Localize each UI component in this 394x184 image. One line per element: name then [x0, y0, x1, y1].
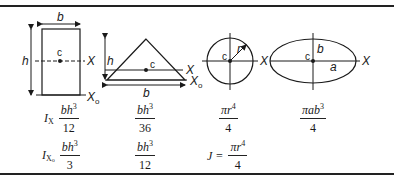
centroid-label: c: [222, 51, 227, 62]
centroid-dot: [228, 59, 232, 63]
centroid-dot: [58, 59, 62, 63]
axis-label-x: X: [259, 54, 269, 68]
fraction: πab34: [300, 103, 326, 134]
row-label-ixo: IXo: [42, 149, 55, 163]
row-label-ix: IX: [44, 112, 54, 126]
width-label: b: [57, 10, 64, 24]
triangle-figure: h c X Xo b: [105, 38, 203, 100]
semi-minor-label: b: [317, 42, 324, 56]
polar-moment-label: J =: [207, 150, 223, 162]
fraction: bh312: [135, 140, 155, 171]
semi-major-label: a: [330, 60, 337, 74]
formula-ix-circle: πr44: [219, 103, 238, 134]
height-label: h: [107, 54, 114, 68]
triangle-shape: [107, 39, 185, 80]
axis-label-xo: Xo: [86, 90, 100, 106]
fraction: bh312: [59, 103, 79, 134]
height-label: h: [22, 54, 29, 68]
formula-ix-triangle: bh336: [135, 103, 155, 134]
fraction: bh33: [60, 140, 80, 171]
formula-ix-rectangle: IX bh312: [44, 103, 79, 134]
bottom-rule: [0, 173, 394, 175]
centroid-label: c: [305, 51, 310, 62]
fraction: πr44: [219, 103, 238, 134]
width-label: b: [143, 86, 150, 100]
fraction: bh336: [135, 103, 155, 134]
fraction: πr44: [228, 140, 247, 171]
radius-label: r: [237, 42, 242, 56]
formula-ix-ellipse: πab34: [300, 103, 326, 134]
axis-label-x: X: [361, 54, 371, 68]
axis-label-xo: Xo: [189, 74, 203, 90]
formula-j-circle: J = πr44: [207, 140, 247, 171]
circle-figure: c r X: [202, 33, 269, 90]
rectangle-figure: b h c X Xo: [22, 10, 100, 106]
formula-ixo-triangle: bh312: [135, 140, 155, 171]
centroid-label: c: [57, 47, 62, 58]
axis-label-x: X: [86, 54, 96, 68]
ellipse-figure: c b a X: [270, 33, 371, 90]
centroid-dot: [311, 59, 315, 63]
formula-ixo-rectangle: IXo bh33: [42, 140, 80, 171]
centroid-dot: [144, 68, 148, 72]
shapes-diagram: b h c X Xo h c X Xo b c r X: [0, 0, 394, 120]
centroid-label: c: [150, 59, 155, 70]
